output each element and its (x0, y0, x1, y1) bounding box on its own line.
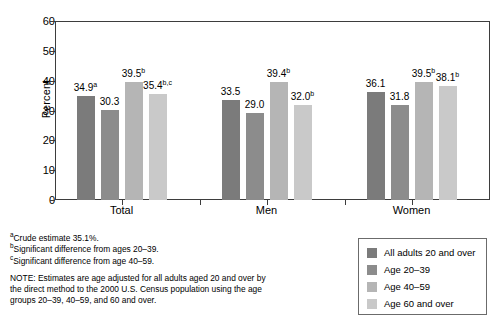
x-tick-mark (200, 200, 201, 205)
legend-swatch-icon (367, 265, 377, 275)
footnotes-block: aCrude estimate 35.1%.bSignificant diffe… (10, 233, 280, 307)
x-tick-mark (122, 200, 123, 205)
legend-item[interactable]: Age 20–39 (367, 261, 486, 278)
legend-label: Age 40–59 (384, 282, 430, 292)
chart-legend: All adults 20 and overAge 20–39Age 40–59… (358, 238, 487, 315)
x-tick-mark (412, 200, 413, 205)
legend-swatch-icon (367, 299, 377, 309)
legend-item[interactable]: Age 60 and over (367, 295, 486, 312)
x-group-label: Total (82, 204, 162, 216)
legend-label: Age 20–39 (384, 265, 430, 275)
x-tick-mark (345, 200, 346, 205)
legend-item[interactable]: All adults 20 and over (367, 244, 486, 261)
legend-item[interactable]: Age 40–59 (367, 278, 486, 295)
x-group-label: Women (372, 204, 452, 216)
footnote-line: bSignificant difference from ages 20–39. (10, 244, 280, 255)
legend-swatch-icon (367, 282, 377, 292)
x-tick-mark (267, 200, 268, 205)
y-axis: Percent 6050403020100 (20, 21, 55, 200)
footnote-line: cSignificant difference from age 40–59. (10, 256, 280, 267)
legend-swatch-icon (367, 248, 377, 258)
legend-label: All adults 20 and over (384, 248, 475, 258)
x-group-label: Men (227, 204, 307, 216)
bar-chart-figure: Percent 6050403020100 34.9a30.339.5b35.4… (0, 0, 501, 325)
chart-note: NOTE: Estimates are age adjusted for all… (10, 273, 278, 307)
plot-area (55, 21, 490, 200)
legend-label: Age 60 and over (384, 299, 454, 309)
footnote-line: aCrude estimate 35.1%. (10, 233, 280, 244)
y-tick-mark (50, 200, 55, 201)
